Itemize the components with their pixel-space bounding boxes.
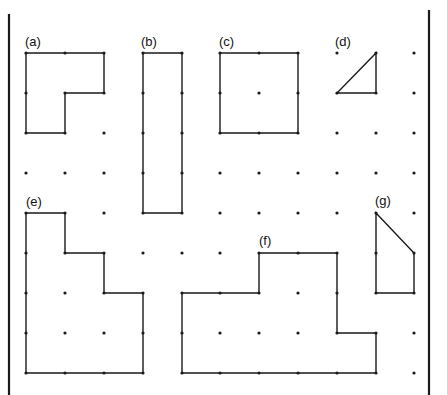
grid-dot (335, 131, 338, 134)
grid-dot (257, 91, 260, 94)
grid-dot (412, 251, 415, 254)
grid-dot (63, 171, 66, 174)
grid-dot (218, 291, 221, 294)
grid-dot (296, 171, 299, 174)
grid-dot (412, 51, 415, 54)
grid-dot (24, 131, 27, 134)
grid-dot (218, 371, 221, 374)
grid-dot (24, 251, 27, 254)
grid-dot (141, 171, 144, 174)
grid-dot (412, 131, 415, 134)
grid-dot (257, 131, 260, 134)
shape-labels: (a)(b)(c)(d)(e)(f)(g) (25, 34, 391, 248)
grid-dot (24, 371, 27, 374)
grid-dot (335, 291, 338, 294)
grid-dot (218, 211, 221, 214)
grid-dot (296, 291, 299, 294)
shape-e (26, 213, 143, 373)
grid-dot (102, 371, 105, 374)
grid-dot (180, 371, 183, 374)
grid-dot (374, 331, 377, 334)
grid-dot (180, 131, 183, 134)
grid-dot (412, 211, 415, 214)
grid-dot (141, 211, 144, 214)
grid-dot (374, 251, 377, 254)
shape-label-g: (g) (375, 193, 391, 208)
grid-dot (141, 91, 144, 94)
grid-dot (63, 131, 66, 134)
grid-dot (335, 251, 338, 254)
grid-dot (141, 371, 144, 374)
grid-dot (63, 331, 66, 334)
shape-d (337, 53, 376, 93)
grid-dot (102, 331, 105, 334)
grid-dot (257, 251, 260, 254)
shape-label-e: (e) (26, 194, 42, 209)
grid-dot (24, 91, 27, 94)
grid-dot (102, 91, 105, 94)
grid-dot (180, 291, 183, 294)
grid-dot (257, 171, 260, 174)
grid-dot (24, 291, 27, 294)
grid-dot (374, 51, 377, 54)
grid-dot (218, 51, 221, 54)
grid-dot (141, 51, 144, 54)
grid-dot (141, 251, 144, 254)
grid-dot (296, 91, 299, 94)
grid-dot (102, 131, 105, 134)
grid-dot (102, 251, 105, 254)
grid-dot (218, 251, 221, 254)
grid-dot (335, 371, 338, 374)
grid-dot (24, 331, 27, 334)
shape-label-c: (c) (219, 34, 234, 49)
grid-dot (218, 131, 221, 134)
shape-g (376, 213, 414, 293)
grid-dot (180, 211, 183, 214)
grid-dot (335, 91, 338, 94)
grid-dot (257, 51, 260, 54)
grid-dot (296, 331, 299, 334)
grid-dot (63, 91, 66, 94)
shape-label-a: (a) (25, 34, 41, 49)
grid-dot (412, 371, 415, 374)
grid-dot (412, 291, 415, 294)
grid-dot (296, 51, 299, 54)
grid-dot (412, 331, 415, 334)
grid-dot (218, 91, 221, 94)
grid-dot (24, 211, 27, 214)
grid-dot (180, 51, 183, 54)
frame-bars (9, 10, 429, 395)
grid-dot (374, 131, 377, 134)
grid-dot (257, 291, 260, 294)
grid-dot (180, 251, 183, 254)
grid-dot (218, 331, 221, 334)
grid-dot (335, 51, 338, 54)
grid-dot (102, 211, 105, 214)
grid-dot (180, 331, 183, 334)
grid-dot (374, 291, 377, 294)
grid-dot (102, 51, 105, 54)
grid-dot (374, 171, 377, 174)
grid-dot (296, 131, 299, 134)
grid-dot (141, 331, 144, 334)
grid-dot (257, 211, 260, 214)
grid-dot (63, 371, 66, 374)
grid-dot (141, 291, 144, 294)
shape-b (143, 53, 182, 213)
grid-dot (374, 91, 377, 94)
grid-dot (24, 171, 27, 174)
shape-label-b: (b) (141, 34, 157, 49)
grid-dot (180, 171, 183, 174)
shape-f (182, 253, 376, 373)
grid-dot (296, 211, 299, 214)
grid-dot (335, 331, 338, 334)
grid-dot (412, 171, 415, 174)
grid-dot (257, 371, 260, 374)
grid-dot (218, 171, 221, 174)
grid-dot (102, 291, 105, 294)
grid-dot (374, 371, 377, 374)
grid-dot (412, 91, 415, 94)
grid-dot (180, 91, 183, 94)
grid-dot (335, 211, 338, 214)
grid-dot (63, 51, 66, 54)
